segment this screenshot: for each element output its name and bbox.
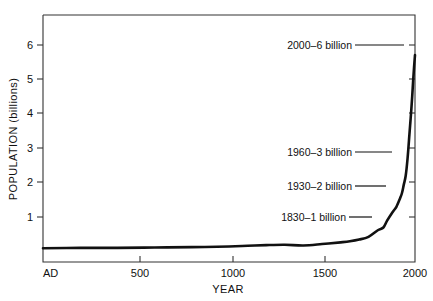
y-tick-label-6: 6 bbox=[27, 39, 33, 51]
x-tick-label-2000: 2000 bbox=[403, 267, 427, 279]
annotation-1930-2-billion: 1930–2 billion bbox=[287, 180, 352, 192]
y-tick-label-2: 2 bbox=[27, 176, 33, 188]
population-growth-chart: 6 5 4 3 2 1 AD 500 1000 1500 2000 YEAR P… bbox=[0, 0, 433, 301]
x-tick-label-ad: AD bbox=[43, 267, 58, 279]
x-tick-label-500: 500 bbox=[131, 267, 149, 279]
y-tick-label-4: 4 bbox=[27, 107, 33, 119]
x-axis-title: YEAR bbox=[212, 283, 244, 295]
annotation-2000-6-billion: 2000–6 billion bbox=[287, 39, 352, 51]
annotation-1960-3-billion: 1960–3 billion bbox=[287, 146, 352, 158]
annotation-1830-1-billion: 1830–1 billion bbox=[281, 211, 346, 223]
y-axis-title: POPULATION (billions) bbox=[7, 78, 19, 201]
y-tick-label-1: 1 bbox=[27, 211, 33, 223]
x-tick-label-1000: 1000 bbox=[221, 267, 245, 279]
chart-svg: 6 5 4 3 2 1 AD 500 1000 1500 2000 YEAR P… bbox=[0, 0, 433, 301]
x-tick-label-1500: 1500 bbox=[313, 267, 337, 279]
y-tick-label-3: 3 bbox=[27, 142, 33, 154]
y-tick-label-5: 5 bbox=[27, 73, 33, 85]
